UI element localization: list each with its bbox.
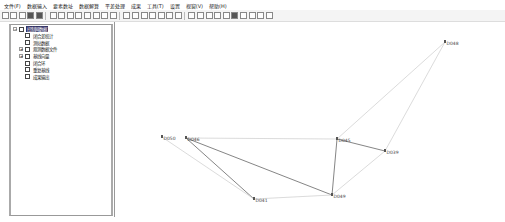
toolbar	[0, 10, 505, 22]
baseline-edge[interactable]	[186, 138, 332, 195]
survey-point[interactable]: D049	[331, 193, 346, 199]
table-icon	[25, 33, 30, 38]
file-icon	[25, 47, 30, 52]
table-icon[interactable]	[84, 12, 91, 19]
point-label: D039	[387, 150, 399, 155]
menu-item-1[interactable]: 数据输入	[27, 2, 47, 9]
tree-item[interactable]: 闭合环	[19, 60, 46, 66]
tree-item[interactable]: 闭合差统计	[19, 33, 54, 39]
zoom-in-icon[interactable]	[141, 12, 148, 19]
project-tree-panel[interactable]: −控制网数据闭合差统计测站数据+观测数据文件+基线向量闭合环重复基线成果输出	[9, 24, 113, 216]
toolbar-separator	[184, 12, 185, 20]
settings-icon[interactable]	[110, 12, 117, 19]
network-icon	[19, 27, 24, 32]
baseline-edge[interactable]	[186, 138, 337, 139]
tree-item-label: 基线向量	[32, 53, 50, 59]
print-icon[interactable]	[36, 12, 43, 19]
menu-item-0[interactable]: 文件(F)	[4, 2, 21, 9]
menu-bar: 文件(F)数据输入要素数址数据解算平差处理成果工具(T)设置视窗(V)帮助(H)	[0, 0, 505, 10]
survey-point[interactable]: D046	[185, 136, 200, 142]
zoom-out-icon[interactable]	[149, 12, 156, 19]
mark-icon[interactable]	[223, 12, 230, 19]
output-icon	[25, 74, 30, 79]
save-as-icon[interactable]	[27, 12, 34, 19]
line-icon[interactable]	[101, 12, 108, 19]
table-icon[interactable]	[206, 12, 213, 19]
menu-item-8[interactable]: 视窗(V)	[186, 2, 203, 9]
tree-item-label: 重复基线	[32, 67, 50, 73]
grid-icon[interactable]	[249, 12, 256, 19]
menu-item-5[interactable]: 成果	[131, 2, 141, 9]
menu-item-7[interactable]: 设置	[170, 2, 180, 9]
baseline-edge[interactable]	[332, 151, 385, 195]
tree-item-label: 测站数据	[32, 40, 50, 46]
repeat-icon	[25, 67, 30, 72]
zoom-window-icon[interactable]	[132, 12, 139, 19]
menu-item-4[interactable]: 平差处理	[105, 2, 125, 9]
point-label: D050	[164, 136, 176, 141]
toolbar-separator	[119, 12, 120, 20]
save-icon[interactable]	[19, 12, 26, 19]
menu-item-6[interactable]: 工具(T)	[147, 2, 164, 9]
menu-item-2[interactable]: 要素数址	[53, 2, 73, 9]
point-label: D041	[256, 198, 268, 203]
pan-icon[interactable]	[158, 12, 165, 19]
tree-item[interactable]: 测站数据	[19, 40, 50, 46]
text-icon[interactable]	[197, 12, 204, 19]
station-icon	[25, 40, 30, 45]
baseline-icon	[25, 54, 30, 59]
baseline-edge[interactable]	[337, 42, 445, 139]
move-icon[interactable]	[166, 12, 173, 19]
point-label: D046	[188, 137, 200, 142]
tree-item-label: 闭合差统计	[32, 33, 54, 39]
survey-point[interactable]: D050	[161, 135, 176, 141]
edit-icon[interactable]	[50, 12, 57, 19]
baseline-edge[interactable]	[385, 42, 445, 151]
collapse-icon[interactable]: −	[13, 27, 17, 31]
chart-icon[interactable]	[214, 12, 221, 19]
table-icon[interactable]	[75, 12, 82, 19]
survey-point[interactable]: D041	[253, 197, 268, 203]
table-icon[interactable]	[67, 12, 74, 19]
table-icon[interactable]	[58, 12, 65, 19]
baseline-edge[interactable]	[186, 138, 254, 199]
compute-icon[interactable]	[188, 12, 195, 19]
tree-item-label: 观测数据文件	[32, 46, 58, 52]
tree-item[interactable]: −控制网数据	[13, 26, 48, 32]
new-icon[interactable]	[2, 12, 9, 19]
tree-item-label: 闭合环	[32, 60, 46, 66]
tree-item-label: 控制网数据	[26, 26, 48, 32]
point-label: D049	[334, 194, 346, 199]
toolbar-separator	[45, 12, 46, 20]
survey-point[interactable]: D048	[444, 40, 459, 46]
point-label: D045	[339, 138, 351, 143]
grid-icon[interactable]	[257, 12, 264, 19]
point-label: D048	[447, 41, 459, 46]
menu-item-3[interactable]: 数据解算	[79, 2, 99, 9]
network-canvas[interactable]: D050D046D041D049D045D039D048	[115, 22, 505, 222]
globe-icon[interactable]	[231, 12, 238, 19]
select-icon[interactable]	[123, 12, 130, 19]
grid-icon[interactable]	[266, 12, 273, 19]
grid-icon[interactable]	[240, 12, 247, 19]
tree-item[interactable]: +基线向量	[19, 53, 50, 59]
tree-item[interactable]: 成果输出	[19, 74, 50, 80]
expand-icon[interactable]: +	[19, 47, 23, 51]
tree-item[interactable]: 重复基线	[19, 67, 50, 73]
redo-icon[interactable]	[175, 12, 182, 19]
loop-icon	[25, 61, 30, 66]
open-icon[interactable]	[10, 12, 17, 19]
baseline-edge[interactable]	[332, 139, 337, 195]
expand-icon[interactable]: +	[19, 54, 23, 58]
survey-point[interactable]: D039	[384, 149, 399, 155]
tree-item-label: 成果输出	[32, 74, 50, 80]
circle-icon[interactable]	[93, 12, 100, 19]
tree-item[interactable]: +观测数据文件	[19, 46, 58, 52]
menu-item-9[interactable]: 帮助(H)	[209, 2, 227, 9]
network-diagram: D050D046D041D049D045D039D048	[115, 22, 505, 222]
survey-point[interactable]: D045	[336, 137, 351, 143]
